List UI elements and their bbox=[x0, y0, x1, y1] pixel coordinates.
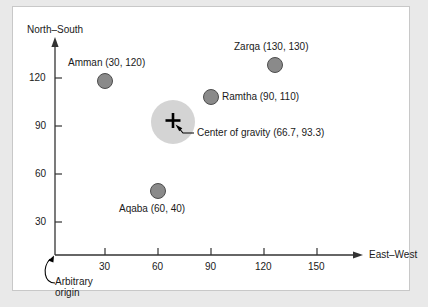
data-label-ramtha: Ramtha (90, 110) bbox=[222, 91, 299, 102]
y-tick-label-90: 90 bbox=[35, 120, 46, 131]
arbitrary-origin-leader bbox=[45, 256, 55, 284]
data-point-aqaba[interactable] bbox=[151, 184, 166, 199]
x-tick-label-120: 120 bbox=[255, 261, 272, 272]
data-label-amman: Amman (30, 120) bbox=[68, 57, 145, 68]
arbitrary-origin-line2: origin bbox=[55, 287, 93, 298]
data-label-zarqa: Zarqa (130, 130) bbox=[234, 41, 309, 52]
arbitrary-origin-note: Arbitrary origin bbox=[55, 276, 93, 298]
x-tick-label-150: 150 bbox=[308, 261, 325, 272]
x-axis-ticks bbox=[105, 248, 317, 255]
data-point-zarqa[interactable] bbox=[268, 58, 283, 73]
data-point-ramtha[interactable] bbox=[204, 90, 219, 105]
y-axis-ticks bbox=[55, 78, 62, 222]
y-tick-label-30: 30 bbox=[35, 216, 46, 227]
x-tick-label-60: 60 bbox=[152, 261, 163, 272]
y-axis-title: North–South bbox=[27, 24, 83, 35]
y-tick-label-120: 120 bbox=[29, 72, 46, 83]
x-tick-label-30: 30 bbox=[99, 261, 110, 272]
figure-root: North–South East–West 120 90 60 30 30 60… bbox=[0, 0, 428, 307]
data-label-center-of-gravity: Center of gravity (66.7, 93.3) bbox=[197, 127, 324, 138]
arbitrary-origin-line1: Arbitrary bbox=[55, 276, 93, 287]
y-tick-label-60: 60 bbox=[35, 168, 46, 179]
data-label-aqaba: Aqaba (60, 40) bbox=[119, 203, 185, 214]
data-point-amman[interactable] bbox=[98, 74, 113, 89]
x-tick-label-90: 90 bbox=[205, 261, 216, 272]
x-axis-title: East–West bbox=[369, 249, 417, 260]
